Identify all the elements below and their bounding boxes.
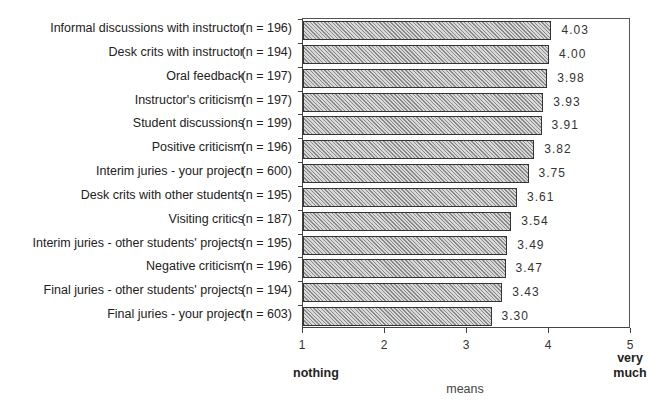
x-tick (466, 328, 467, 333)
bar (303, 69, 547, 88)
bar-value-label: 4.00 (559, 47, 586, 61)
bar-value-label: 3.47 (516, 261, 543, 275)
category-label: Negative criticism (146, 259, 244, 273)
x-anchor-low: nothing (293, 366, 339, 380)
sample-size-label: (n = 195) (242, 236, 292, 250)
x-tick-label: 3 (456, 338, 476, 352)
bar (303, 188, 517, 207)
bar-value-label: 3.54 (521, 214, 548, 228)
category-label: Informal discussions with instructor (50, 21, 244, 35)
x-tick (548, 328, 549, 333)
y-tick (298, 138, 303, 139)
y-tick (298, 19, 303, 20)
category-label: Final juries - your project (107, 307, 244, 321)
sample-size-label: (n = 194) (242, 45, 292, 59)
bar (303, 212, 511, 231)
category-label: Desk crits with instructor (109, 45, 244, 59)
category-label: Desk crits with other students (81, 188, 244, 202)
sample-size-label: (n = 197) (242, 69, 292, 83)
bar-value-label: 3.93 (553, 95, 580, 109)
bar (303, 259, 506, 278)
x-tick-label: 4 (538, 338, 558, 352)
category-labels: Informal discussions with instructor(n =… (0, 0, 296, 330)
x-axis-label: means (420, 382, 510, 396)
y-tick (298, 67, 303, 68)
y-tick (298, 186, 303, 187)
bar-value-label: 4.03 (561, 23, 588, 37)
y-tick (298, 91, 303, 92)
x-tick (302, 328, 303, 333)
plot-area: 4.034.003.983.933.913.823.753.613.543.49… (302, 18, 630, 328)
bar (303, 116, 542, 135)
category-label: Positive criticism (152, 140, 244, 154)
x-anchor-high: very much (600, 351, 654, 381)
category-label: Student discussions (133, 116, 244, 130)
x-tick-label: 5 (620, 338, 640, 352)
bar-value-label: 3.98 (557, 71, 584, 85)
y-tick (298, 43, 303, 44)
bar (303, 21, 551, 40)
sample-size-label: (n = 196) (242, 21, 292, 35)
category-label: Interim juries - other students' project… (33, 236, 245, 250)
bar-value-label: 3.75 (539, 166, 566, 180)
bar (303, 307, 492, 326)
x-tick-label: 1 (292, 338, 312, 352)
x-tick (384, 328, 385, 333)
y-tick (298, 114, 303, 115)
sample-size-label: (n = 196) (242, 140, 292, 154)
sample-size-label: (n = 199) (242, 116, 292, 130)
sample-size-label: (n = 194) (242, 283, 292, 297)
bar-value-label: 3.82 (544, 142, 571, 156)
y-tick (298, 257, 303, 258)
x-anchor-high-line2: much (600, 366, 654, 381)
x-anchor-high-line1: very (600, 351, 654, 366)
category-label: Visiting critics (169, 212, 244, 226)
sample-size-label: (n = 600) (242, 164, 292, 178)
y-tick (298, 162, 303, 163)
bar (303, 45, 549, 64)
x-tick (630, 328, 631, 333)
bar-value-label: 3.30 (502, 309, 529, 323)
bar-value-label: 3.61 (527, 190, 554, 204)
y-tick (298, 234, 303, 235)
bar-value-label: 3.91 (552, 118, 579, 132)
y-tick (298, 281, 303, 282)
sample-size-label: (n = 196) (242, 259, 292, 273)
x-tick-label: 2 (374, 338, 394, 352)
bar-value-label: 3.49 (517, 238, 544, 252)
bar (303, 93, 543, 112)
sample-size-label: (n = 603) (242, 307, 292, 321)
category-label: Oral feedback (166, 69, 244, 83)
bar (303, 140, 534, 159)
bar (303, 283, 502, 302)
bar (303, 164, 529, 183)
y-tick (298, 305, 303, 306)
bar (303, 236, 507, 255)
sample-size-label: (n = 195) (242, 188, 292, 202)
category-label: Instructor's criticism (135, 93, 244, 107)
sample-size-label: (n = 187) (242, 212, 292, 226)
bar-value-label: 3.43 (512, 285, 539, 299)
category-label: Final juries - other students' projects (44, 283, 244, 297)
category-label: Interim juries - your project (96, 164, 244, 178)
y-tick (298, 210, 303, 211)
sample-size-label: (n = 197) (242, 93, 292, 107)
